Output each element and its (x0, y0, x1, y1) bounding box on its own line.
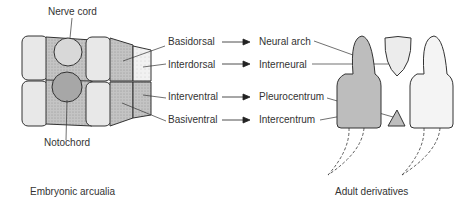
label-interneural: Interneural (259, 59, 307, 71)
label-notochord: Notochord (44, 137, 90, 149)
label-neural-arch: Neural arch (259, 36, 311, 48)
label-basiventral: Basiventral (168, 114, 217, 126)
label-nerve-cord: Nerve cord (48, 6, 97, 18)
adult-derivatives-shapes (337, 36, 453, 128)
label-basidorsal: Basidorsal (168, 36, 215, 48)
label-intercentrum: Intercentrum (259, 114, 315, 126)
arcualia-diagram (0, 0, 474, 207)
label-interdorsal: Interdorsal (168, 59, 215, 71)
label-pleurocentrum: Pleurocentrum (259, 91, 324, 103)
caption-embryonic-arcualia: Embryonic arcualia (30, 186, 115, 198)
embryonic-arcualia-block (22, 36, 151, 126)
label-interventral: Interventral (168, 91, 218, 103)
caption-adult-derivatives: Adult derivatives (335, 186, 408, 198)
